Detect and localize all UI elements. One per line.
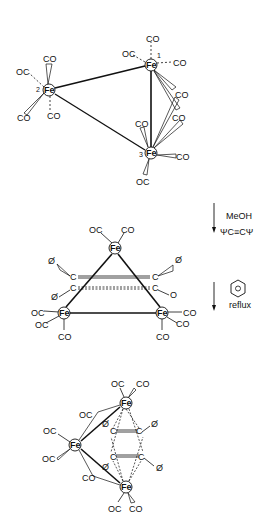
fe-label: Fe (70, 440, 81, 450)
fe-label: Fe (121, 398, 132, 408)
carbonyl-label: OC (89, 225, 103, 235)
carbonyl-label: CO (173, 58, 187, 68)
reaction-scheme: Fe Fe Fe 1 2 3 CO OC CO CO CO OC CO CO C… (0, 0, 271, 531)
carbon-label: C (70, 272, 77, 282)
phenyl-label: Ø (48, 256, 55, 266)
carbon-label: C (138, 452, 145, 462)
carbon-label: C (152, 272, 159, 282)
carbonyl-label: CO (129, 504, 143, 514)
carbonyl-label: CO (136, 379, 150, 389)
phenyl-label: Ø (102, 462, 109, 472)
carbon-label: C (152, 283, 159, 293)
carbon-label: C (110, 426, 117, 436)
carbonyl-label: OC (108, 504, 122, 514)
phenyl-label: Ø (51, 292, 58, 302)
phenyl-label: Ø (175, 255, 182, 265)
fe-label: Fe (157, 308, 168, 318)
arrow-head-icon (212, 227, 216, 233)
carbon-label: C (136, 426, 143, 436)
fe-label: Fe (146, 60, 157, 70)
reagent-reflux: reflux (229, 300, 252, 310)
oxygen-label: O (170, 290, 177, 300)
carbonyl-label: CO (58, 332, 72, 342)
reaction-step-1: MeOH ΨC≡CΨ (212, 203, 253, 237)
carbonyl-label: OC (79, 410, 93, 420)
reaction-step-2: reflux (212, 280, 252, 311)
carbonyl-label: CO (183, 308, 197, 318)
arrow-head-icon (212, 305, 216, 311)
carbonyl-label: OC (42, 454, 56, 464)
fe-label: Fe (59, 308, 70, 318)
carbonyl-label: OC (31, 308, 45, 318)
carbonyl-label: CO (47, 111, 61, 121)
carbonyl-label: OC (111, 379, 125, 389)
carbonyl-label: CO (146, 34, 160, 44)
phenyl-label: Ø (151, 419, 158, 429)
carbonyl-label: CO (43, 54, 57, 64)
carbonyl-label: OC (43, 426, 57, 436)
carbonyl-label: CO (82, 473, 96, 483)
structure-1-labels: Fe Fe Fe 1 2 3 CO OC CO CO CO OC CO CO C… (16, 34, 190, 187)
carbonyl-label: CO (17, 113, 31, 123)
atom-number: 2 (36, 86, 40, 93)
structure-2-labels: Fe Fe Fe OC CO C C C C Ø Ø Ø O OC OC CO … (31, 225, 197, 342)
phenyl-label: Ø (102, 419, 109, 429)
fe-label: Fe (44, 85, 55, 95)
fe-label: Fe (121, 482, 132, 492)
carbon-label: C (110, 452, 117, 462)
phenyl-label: Ø (156, 463, 163, 473)
fe-fe-bond (55, 94, 145, 150)
benzene-icon (231, 280, 245, 297)
reagent-methanol: MeOH (226, 211, 252, 221)
carbonyl-label: OC (16, 67, 30, 77)
structure-3-labels: Fe Fe Fe OC CO OC OC OC CO OC CO C C C C… (42, 379, 163, 514)
carbonyl-label: OC (35, 320, 49, 330)
carbonyl-label: OC (122, 49, 136, 59)
carbonyl-label: CO (176, 152, 190, 162)
reagent-alkyne: ΨC≡CΨ (220, 227, 253, 237)
fe-label: Fe (110, 243, 121, 253)
carbon-label: C (70, 283, 77, 293)
fe-fe-bond (55, 66, 145, 88)
carbonyl-label: CO (121, 225, 135, 235)
carbonyl-label: OC (136, 177, 150, 187)
aromatic-ring-icon (236, 286, 241, 291)
atom-number: 1 (157, 52, 161, 59)
carbonyl-label: CO (172, 113, 186, 123)
carbonyl-label: CO (156, 332, 170, 342)
carbonyl-label: CO (135, 119, 149, 129)
carbonyl-label: CO (176, 319, 190, 329)
fe-label: Fe (146, 148, 157, 158)
carbonyl-label: CO (175, 90, 189, 100)
atom-number: 3 (139, 151, 143, 158)
